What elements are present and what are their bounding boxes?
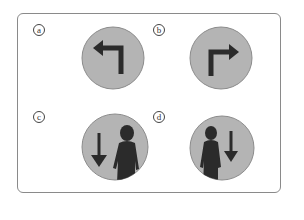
down-arrow-person-right-icon: [81, 113, 149, 181]
option-b[interactable]: b: [153, 24, 273, 104]
option-c[interactable]: c: [33, 111, 153, 191]
option-label-d: d: [153, 111, 165, 123]
person-left-down-arrow-icon: [189, 115, 255, 181]
turn-left-arrow-icon: [81, 26, 145, 90]
option-label-b: b: [153, 24, 165, 36]
option-label-c: c: [33, 111, 45, 123]
option-label-a: a: [33, 24, 45, 36]
options-frame: a b c: [17, 13, 281, 193]
option-a[interactable]: a: [33, 24, 153, 104]
option-d[interactable]: d: [153, 111, 273, 191]
turn-right-arrow-icon: [189, 26, 253, 90]
